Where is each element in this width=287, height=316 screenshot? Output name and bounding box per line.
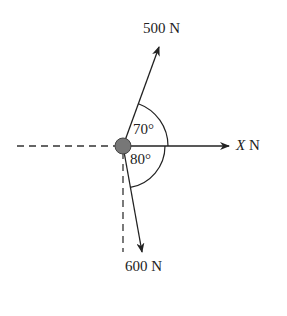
label-xn: X N: [236, 137, 260, 154]
particle-node: [115, 138, 131, 154]
label-x-unit: N: [245, 137, 260, 153]
label-500n: 500 N: [143, 20, 180, 37]
label-600n: 600 N: [125, 258, 162, 275]
label-x-var: X: [236, 137, 245, 153]
angle-label-80: 80°: [130, 151, 151, 168]
angle-label-70: 70°: [133, 121, 154, 138]
